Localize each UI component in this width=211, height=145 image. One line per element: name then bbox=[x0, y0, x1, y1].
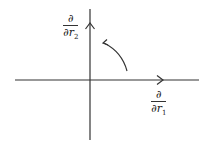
rotation-arrowhead-icon bbox=[103, 40, 108, 46]
denominator-base: ∂r bbox=[151, 102, 162, 115]
rotation-arrow-curve bbox=[104, 43, 127, 71]
label-d-dr2-numerator: ∂ bbox=[68, 13, 74, 25]
denominator-subscript: 1 bbox=[162, 109, 166, 117]
coordinate-diagram bbox=[0, 0, 211, 145]
denominator-subscript: 2 bbox=[74, 33, 78, 41]
label-d-dr2: ∂ ∂r2 bbox=[63, 13, 78, 41]
label-d-dr2-denominator: ∂r2 bbox=[63, 26, 78, 41]
label-d-dr1-numerator: ∂ bbox=[156, 89, 162, 101]
label-d-dr1: ∂ ∂r1 bbox=[151, 89, 166, 117]
label-d-dr1-denominator: ∂r1 bbox=[151, 102, 166, 117]
denominator-base: ∂r bbox=[63, 26, 74, 39]
